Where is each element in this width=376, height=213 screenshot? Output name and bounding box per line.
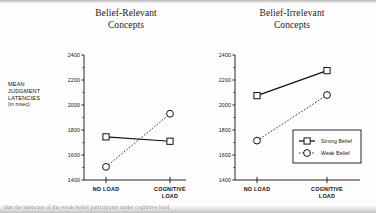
panel-title-belief-relevant: Belief-Relevant Concepts xyxy=(62,8,190,31)
data-point-marker xyxy=(103,134,109,140)
x-tick-label: COGNITIVELOAD xyxy=(144,186,196,199)
y-tick-label: 2200 xyxy=(58,77,80,83)
x-tick-label-line: COGNITIVE xyxy=(301,186,353,193)
y-axis-caption: MEAN JUDGMENT LATENCIES (in msec) xyxy=(8,81,60,108)
y-axis-caption-line-1: MEAN xyxy=(8,81,60,88)
plot-area-belief-relevant xyxy=(58,50,188,185)
y-axis-caption-line-3: LATENCIES xyxy=(8,95,60,102)
y-tick-label: 1600 xyxy=(58,152,80,158)
plot-area-belief-irrelevant xyxy=(205,50,365,185)
y-tick-label: 1800 xyxy=(58,127,80,133)
x-tick-label: NO LOAD xyxy=(231,186,283,193)
legend-label-weak-belief: Weak Belief xyxy=(321,150,350,156)
series-line xyxy=(106,137,170,141)
chart-panel-belief-relevant xyxy=(58,50,188,185)
data-point-marker xyxy=(254,93,260,99)
y-tick-label: 1800 xyxy=(209,127,231,133)
x-tick-label-line: NO LOAD xyxy=(80,186,132,193)
cut-off-caption-text: that the latencies of the weak belief pa… xyxy=(4,204,372,210)
legend-label-strong-belief: Strong Belief xyxy=(321,138,352,144)
panel-title-line1: Belief-Irrelevant xyxy=(228,8,356,20)
scan-top-edge xyxy=(0,0,376,3)
panel-title-line2: Concepts xyxy=(228,20,356,32)
y-tick-label: 1600 xyxy=(209,152,231,158)
x-tick-label: NO LOAD xyxy=(80,186,132,193)
y-axis-caption-units: (in msec) xyxy=(8,101,60,108)
y-tick-label: 2400 xyxy=(58,52,80,58)
data-point-marker xyxy=(324,92,331,99)
panel-title-line1: Belief-Relevant xyxy=(62,8,190,20)
x-tick-label: COGNITIVELOAD xyxy=(301,186,353,199)
figure-page: Belief-Relevant Concepts Belief-Irreleva… xyxy=(0,0,376,213)
panel-title-line2: Concepts xyxy=(62,20,190,32)
y-tick-label: 2000 xyxy=(209,102,231,108)
series-line xyxy=(257,71,327,96)
y-axis-caption-line-2: JUDGMENT xyxy=(8,88,60,95)
panel-title-belief-irrelevant: Belief-Irrelevant Concepts xyxy=(228,8,356,31)
data-point-marker xyxy=(167,110,174,117)
y-tick-label: 1400 xyxy=(58,177,80,183)
x-tick-label-line: COGNITIVE xyxy=(144,186,196,193)
x-tick-label-line: LOAD xyxy=(144,193,196,200)
y-tick-label: 2000 xyxy=(58,102,80,108)
data-point-marker xyxy=(324,68,330,74)
data-point-marker xyxy=(103,163,110,170)
data-point-marker xyxy=(167,138,173,144)
y-tick-label: 1400 xyxy=(209,177,231,183)
chart-panel-belief-irrelevant xyxy=(205,50,365,185)
y-tick-label: 2400 xyxy=(209,52,231,58)
x-tick-label-line: NO LOAD xyxy=(231,186,283,193)
y-tick-label: 2200 xyxy=(209,77,231,83)
data-point-marker xyxy=(254,137,261,144)
x-tick-label-line: LOAD xyxy=(301,193,353,200)
